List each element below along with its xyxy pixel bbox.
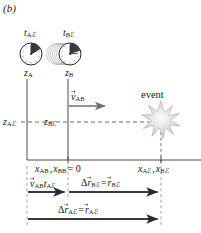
clock-face-a — [20, 43, 42, 65]
x-be-sub: Bℰ — [160, 167, 169, 174]
vt-vector-sub: AB — [34, 182, 43, 189]
measure-label-rbe: ΔrBℰ=rBℰ — [81, 178, 120, 189]
physics-reference-frame-diagram: (b) tAℰ tBℰ zA zB zAℰ zBℰ vAB event xAB,… — [0, 0, 201, 233]
x-bb-sub: BB — [58, 167, 67, 174]
axis-a-head-label: zA — [24, 68, 33, 79]
event-label: event — [141, 90, 164, 101]
x-axis-origin-label: xAB,xBB= 0 — [35, 164, 82, 175]
axis-a-sub: A — [28, 71, 33, 78]
rbe-vector-symbol: r — [87, 178, 91, 188]
vt-time-sub: Aℰ — [46, 182, 55, 189]
height-be-sub: Bℰ — [48, 120, 57, 127]
measure-label-rae: ΔrAℰ=rAℰ — [58, 205, 98, 216]
rbe-sub-2: Bℰ — [111, 181, 120, 188]
axis-b-sub: B — [69, 71, 73, 78]
velocity-vector-label: vAB — [71, 92, 85, 103]
x-axis-event-label: xAℰ,xBℰ — [138, 164, 169, 175]
x-ab-sub: AB — [39, 167, 48, 174]
vt-vector-symbol: v — [30, 179, 34, 189]
rbe-equals: = — [100, 177, 108, 188]
measure-label-vt: vABtAℰ — [30, 179, 55, 190]
clock-a-time-sub: Aℰ — [27, 31, 36, 38]
rbe-sub: Bℰ — [91, 181, 100, 188]
velocity-vector-symbol: v — [71, 92, 75, 102]
height-ae-sub: Aℰ — [7, 120, 16, 127]
velocity-vector-sub: AB — [75, 95, 84, 102]
rae-sub: Aℰ — [68, 208, 77, 215]
height-label-be: zBℰ — [44, 117, 56, 128]
clock-b-time-label: tBℰ — [63, 28, 74, 39]
height-label-ae: zAℰ — [3, 117, 16, 128]
clock-a-time-label: tAℰ — [24, 28, 36, 39]
event-starburst-icon — [142, 101, 181, 139]
rae-vector-symbol-2: r — [85, 205, 89, 215]
rbe-vector-symbol-2: r — [108, 178, 112, 188]
rae-sub-2: Aℰ — [89, 208, 98, 215]
clock-face-b — [59, 43, 81, 65]
clock-b-time-sub: Bℰ — [66, 31, 75, 38]
panel-label: (b) — [3, 3, 16, 14]
x-origin-equals: = 0 — [67, 163, 82, 174]
rae-equals: = — [77, 204, 85, 215]
axis-b-head-label: zB — [65, 68, 73, 79]
rae-vector-symbol: r — [64, 205, 68, 215]
